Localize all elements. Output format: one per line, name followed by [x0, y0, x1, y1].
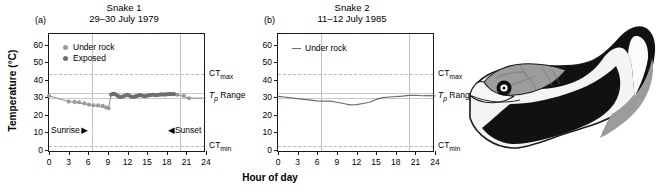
y-tick-40: 40	[23, 76, 43, 85]
x-tick-24: 24	[196, 158, 216, 167]
x-tick-6: 6	[78, 158, 98, 167]
ct-max-label-a: CTmax	[209, 69, 233, 80]
legend-item-under-rock: Under rock	[63, 43, 115, 52]
panel-a-title-line2: 29–30 July 1979	[54, 14, 194, 25]
panel-b-title-line2: 11–12 July 1985	[282, 14, 422, 25]
legend-item-exposed: Exposed	[63, 54, 115, 63]
y-tick-b-10: 10	[252, 128, 272, 137]
x-tick-b-3: 3	[288, 158, 308, 167]
ct-min-label-b: CTmin	[438, 141, 460, 152]
under-rock-marker-icon	[63, 45, 68, 50]
ct-max-label-b: CTmax	[438, 69, 462, 80]
x-tick-b-15: 15	[366, 158, 386, 167]
panel-b-title: Snake 2 11–12 July 1985	[282, 3, 422, 24]
x-tick-21: 21	[176, 158, 196, 167]
x-tick-b-21: 21	[405, 158, 425, 167]
x-tick-3: 3	[59, 158, 79, 167]
y-tick-10: 10	[23, 128, 43, 137]
legend-label-under-rock: Under rock	[73, 43, 115, 52]
x-tick-b-6: 6	[307, 158, 327, 167]
panel-b: Snake 2 11–12 July 1985 (b) 60 50 40 30 …	[240, 0, 460, 194]
y-tick-0: 0	[23, 146, 43, 155]
x-tick-b-9: 9	[327, 158, 347, 167]
legend-item-under-rock-b: Under rock	[292, 44, 347, 53]
under-rock-line-icon	[292, 48, 301, 49]
figure-root: Temperature (°C) Snake 1 29–30 July 1979…	[0, 0, 660, 194]
x-tick-b-18: 18	[386, 158, 406, 167]
y-tick-60: 60	[23, 41, 43, 50]
exposed-marker-icon	[63, 56, 68, 61]
panel-a-plot-frame: 60 50 40 30 20 10 0 0 3 6 9 12 15 18 21 …	[48, 33, 205, 152]
x-axis-title: Hour of day	[180, 172, 360, 183]
y-tick-b-0: 0	[252, 146, 272, 155]
legend-label-exposed: Exposed	[73, 54, 106, 63]
ct-min-label-a: CTmin	[209, 141, 231, 152]
y-tick-b-50: 50	[252, 58, 272, 67]
sunrise-label: Sunrise	[51, 125, 80, 135]
panel-a-label: (a)	[35, 16, 46, 25]
panel-b-legend: Under rock	[292, 44, 347, 55]
x-tick-12: 12	[118, 158, 138, 167]
panel-a: Snake 1 29–30 July 1979 (a) 60 50 40 30 …	[0, 0, 240, 194]
snake-illustration	[462, 8, 660, 188]
panel-b-plot-frame: 60 50 40 30 20 10 0 0 3 6 9 12 15 18 21 …	[277, 33, 434, 152]
y-tick-50: 50	[23, 58, 43, 67]
sunset-annotation-a: ◀ Sunset	[168, 126, 201, 135]
panel-a-legend: Under rock Exposed	[63, 43, 115, 65]
y-tick-b-40: 40	[252, 76, 272, 85]
x-tick-b-12: 12	[347, 158, 367, 167]
y-tick-b-30: 30	[252, 93, 272, 102]
x-tick-9: 9	[98, 158, 118, 167]
panel-a-title: Snake 1 29–30 July 1979	[54, 3, 194, 24]
y-tick-b-60: 60	[252, 41, 272, 50]
sunrise-annotation-a: Sunrise ▶	[51, 126, 87, 135]
y-tick-b-20: 20	[252, 111, 272, 120]
x-tick-b-24: 24	[425, 158, 445, 167]
sunset-label: Sunset	[175, 125, 201, 135]
x-tick-15: 15	[137, 158, 157, 167]
y-tick-20: 20	[23, 111, 43, 120]
x-tick-0: 0	[39, 158, 59, 167]
x-tick-b-0: 0	[268, 158, 288, 167]
x-tick-18: 18	[157, 158, 177, 167]
y-tick-30: 30	[23, 93, 43, 102]
legend-label-under-rock-b: Under rock	[305, 44, 347, 53]
panel-b-label: (b)	[264, 16, 275, 25]
